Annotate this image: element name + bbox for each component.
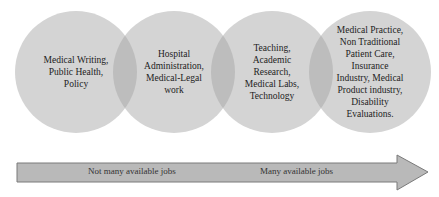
circle-4-line-8: Evaluations. (337, 108, 404, 120)
circle-1-line-3: Policy (44, 78, 109, 90)
circle-4-line-3: Patient Care, (337, 48, 404, 60)
circle-1-label: Medical Writing, Public Health, Policy (30, 40, 122, 104)
arrow-shape (17, 155, 428, 190)
circle-1-line-1: Medical Writing, (44, 54, 109, 66)
arrow-left-label: Not many available jobs (88, 166, 176, 176)
circle-3-line-5: Technology (245, 90, 299, 102)
circle-3-line-4: Medical Labs, (245, 78, 299, 90)
circle-3-line-2: Academic (245, 54, 299, 66)
circle-4-line-2: Non Traditional (337, 36, 404, 48)
circle-4-line-1: Medical Practice, (337, 24, 404, 36)
circle-2-label: Hospital Administration, Medical-Legal w… (128, 40, 220, 104)
circle-4-line-4: Insurance (337, 60, 404, 72)
circle-3-line-1: Teaching, (245, 42, 299, 54)
circle-4-label: Medical Practice, Non Traditional Patien… (320, 22, 420, 122)
circle-4-line-7: Disability (337, 96, 404, 108)
circle-4-line-6: Product industry, (337, 84, 404, 96)
circle-4-line-5: Industry, Medical (337, 72, 404, 84)
circle-3-line-3: Research, (245, 66, 299, 78)
circle-3-label: Teaching, Academic Research, Medical Lab… (226, 36, 318, 108)
circle-2-line-2: Administration, (144, 60, 204, 72)
circle-2-line-4: work (144, 84, 204, 96)
circle-2-line-1: Hospital (144, 48, 204, 60)
arrow-right-label: Many available jobs (260, 166, 333, 176)
circle-1-line-2: Public Health, (44, 66, 109, 78)
circle-2-line-3: Medical-Legal (144, 72, 204, 84)
